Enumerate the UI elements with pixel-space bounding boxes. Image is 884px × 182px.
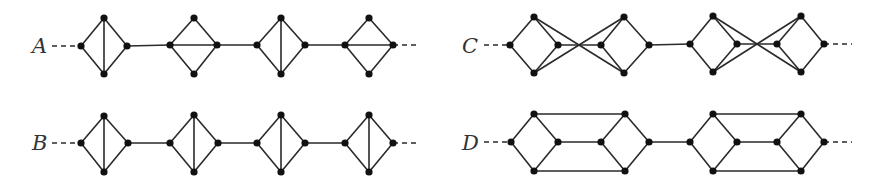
- diamond-edge: [369, 143, 393, 172]
- diamond-edge: [510, 45, 534, 73]
- diamond-edge: [257, 45, 281, 74]
- diamond-edge: [281, 45, 305, 74]
- diamond-edge: [713, 142, 737, 171]
- vertex-dot: [166, 139, 173, 146]
- diamond-edge: [534, 17, 558, 45]
- diamond-edge: [601, 114, 625, 142]
- diamond-edge: [345, 45, 369, 74]
- vertex-dot: [190, 111, 197, 118]
- diamond-edge: [369, 115, 393, 143]
- vertex-dot: [213, 41, 220, 48]
- diamond-edge: [81, 46, 104, 74]
- link-edge: [649, 44, 690, 45]
- vertex-dot: [645, 138, 652, 145]
- vertex-dot: [621, 110, 628, 117]
- vertex-dot: [709, 167, 716, 174]
- vertex-dot: [597, 41, 604, 48]
- vertex-dot: [253, 139, 260, 146]
- vertex-dot: [277, 70, 284, 77]
- vertex-dot: [530, 69, 537, 76]
- diamond-edge: [690, 44, 713, 72]
- diamond-edge: [194, 45, 217, 74]
- vertex-dot: [686, 138, 693, 145]
- vertex-dot: [733, 40, 740, 47]
- vertex-dot: [365, 70, 372, 77]
- diamond-edge: [713, 44, 737, 72]
- vertex-dot: [530, 13, 537, 20]
- vertex-dot: [597, 138, 604, 145]
- vertex-dot: [166, 41, 173, 48]
- diamond-edge: [801, 114, 824, 142]
- diamond-edge: [281, 143, 305, 172]
- diamond-edge: [624, 17, 649, 45]
- vertex-dot: [686, 40, 693, 47]
- diamond-edge: [81, 143, 104, 172]
- graph-c: C: [462, 12, 852, 76]
- vertex-dot: [301, 41, 308, 48]
- vertex-dot: [797, 12, 804, 19]
- graph-label-b: B: [31, 131, 47, 155]
- diamond-edge: [81, 18, 104, 46]
- diamond-edge: [369, 18, 393, 45]
- vertex-dot: [365, 111, 372, 118]
- vertex-dot: [124, 139, 131, 146]
- vertices: [77, 14, 396, 77]
- graph-label-d: D: [461, 131, 479, 155]
- graph-label-c: C: [462, 34, 478, 58]
- diamond-edge: [534, 142, 558, 171]
- vertex-dot: [389, 41, 396, 48]
- diamond-edge: [511, 142, 534, 171]
- diamond-edge: [104, 18, 127, 46]
- graph-label-a: A: [30, 34, 47, 58]
- diamond-edge: [601, 45, 624, 73]
- diamond-edge: [601, 142, 625, 171]
- vertex-dot: [797, 167, 804, 174]
- vertex-dot: [506, 41, 513, 48]
- diamond-edge: [690, 114, 713, 142]
- graph-d: D: [461, 110, 852, 174]
- diamond-edge: [801, 16, 824, 44]
- diamond-edge: [81, 116, 104, 143]
- diamond-edge: [801, 44, 824, 72]
- vertex-dot: [709, 12, 716, 19]
- diamond-edge: [345, 143, 369, 172]
- vertex-dot: [773, 138, 780, 145]
- diamond-edge: [713, 16, 737, 44]
- diamond-edge: [170, 143, 194, 172]
- diamond-edge: [257, 143, 281, 172]
- vertex-dot: [820, 138, 827, 145]
- diamond-edge: [713, 114, 737, 142]
- vertex-dot: [797, 68, 804, 75]
- diamond-edge: [510, 17, 534, 45]
- diamond-edge: [601, 17, 624, 45]
- diamond-edge: [104, 46, 127, 74]
- vertex-dot: [277, 168, 284, 175]
- diamond-edge: [534, 114, 558, 142]
- diamond-edge: [281, 115, 305, 143]
- vertex-dot: [277, 111, 284, 118]
- diamond-edge: [625, 142, 649, 171]
- vertex-dot: [341, 41, 348, 48]
- vertex-dot: [620, 69, 627, 76]
- diamond-edge: [281, 18, 305, 45]
- vertex-dot: [214, 139, 221, 146]
- vertex-dot: [301, 139, 308, 146]
- diamond-edge: [625, 114, 649, 142]
- vertex-dot: [389, 139, 396, 146]
- diamond-edge: [170, 18, 194, 45]
- diamond-edge: [690, 142, 713, 171]
- vertex-dot: [100, 112, 107, 119]
- vertex-dot: [645, 41, 652, 48]
- vertex-dot: [365, 168, 372, 175]
- diamond-edge: [257, 115, 281, 143]
- diamond-edge: [777, 142, 801, 171]
- graph-a: A: [30, 14, 420, 77]
- vertex-dot: [709, 68, 716, 75]
- vertex-dot: [190, 168, 197, 175]
- vertex-dot: [530, 167, 537, 174]
- diamond-edge: [690, 16, 713, 44]
- diamond-edge: [170, 45, 194, 74]
- diamond-edge: [345, 115, 369, 143]
- diamond-edge: [777, 16, 801, 44]
- vertex-dot: [773, 40, 780, 47]
